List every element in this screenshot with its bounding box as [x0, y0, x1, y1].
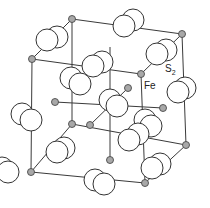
pyrite-crystal-diagram: Fe S2: [0, 0, 210, 208]
s2-dimer: [46, 137, 75, 163]
fe-atom: [125, 85, 132, 92]
fe-atom: [29, 56, 36, 63]
fe-atom: [183, 142, 190, 149]
fe-atom: [179, 31, 186, 38]
s2-dimer: [99, 89, 128, 117]
fe-atom: [142, 180, 149, 187]
fe-atom: [28, 169, 35, 176]
s2-label: S2: [165, 63, 176, 76]
s2-dimer: [84, 169, 115, 195]
fe-atom: [138, 71, 145, 78]
fe-atom: [52, 99, 59, 106]
s2-label-subscript: 2: [172, 69, 176, 76]
fe-label: Fe: [144, 80, 156, 91]
s2-dimer: [146, 39, 177, 65]
s2-dimer: [11, 103, 42, 131]
s2-dimer: [167, 77, 196, 103]
s2-dimer: [141, 153, 171, 179]
s2-dimer: [118, 123, 149, 151]
s2-dimer: [82, 51, 113, 77]
s2-dimer: [0, 157, 19, 183]
s2-dimers: [0, 9, 196, 195]
fe-atom: [69, 121, 76, 128]
s2-dimer: [113, 9, 144, 37]
fe-atom: [69, 16, 76, 23]
fe-atom: [87, 122, 94, 129]
fe-atom: [160, 105, 167, 112]
s2-dimer: [36, 26, 68, 51]
fe-atom: [107, 157, 114, 164]
